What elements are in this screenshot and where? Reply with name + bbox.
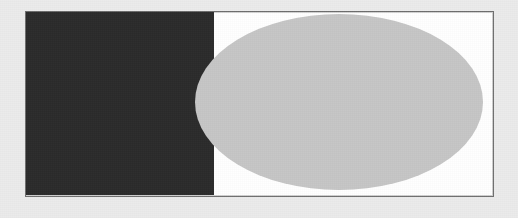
- dark-rectangle-shape: [25, 11, 214, 195]
- figure-canvas: [0, 0, 518, 218]
- figure-frame: [25, 11, 494, 197]
- gray-ellipse-shape: [195, 14, 483, 190]
